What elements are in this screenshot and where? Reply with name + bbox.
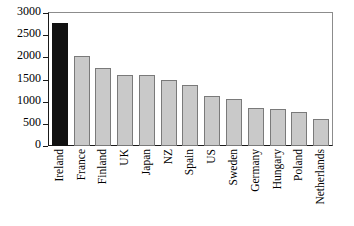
bar xyxy=(117,75,133,146)
x-axis-label: Finland xyxy=(98,149,110,184)
bar xyxy=(74,56,90,146)
x-axis-label: Spain xyxy=(185,149,197,175)
x-axis-label: Poland xyxy=(294,149,306,181)
x-axis-label: Japan xyxy=(141,149,153,175)
bar-series xyxy=(49,13,332,146)
bar-slot xyxy=(114,13,136,146)
y-axis-tick-label: 500 xyxy=(23,116,41,128)
x-axis-label-slot: Finland xyxy=(93,149,115,225)
bar-slot xyxy=(310,13,332,146)
bar xyxy=(139,75,155,146)
bar-slot xyxy=(180,13,202,146)
bar xyxy=(313,119,329,146)
x-axis-labels: IrelandFranceFinlandUKJapanNZSpainUSSwed… xyxy=(49,149,332,225)
x-axis-label-slot: Netherlands xyxy=(310,149,332,225)
x-axis-label-slot: NZ xyxy=(158,149,180,225)
x-axis-label: NZ xyxy=(163,149,175,164)
bar xyxy=(52,23,68,146)
x-axis-label-slot: Germany xyxy=(245,149,267,225)
x-axis-label: Germany xyxy=(250,149,262,192)
bar-slot xyxy=(93,13,115,146)
x-axis-label-slot: Spain xyxy=(180,149,202,225)
y-axis: 050010001500200025003000 xyxy=(0,0,48,160)
bar xyxy=(270,109,286,146)
bar-slot xyxy=(49,13,71,146)
y-axis-tick-label: 3000 xyxy=(17,5,41,17)
x-axis-label-slot: US xyxy=(201,149,223,225)
bar xyxy=(95,68,111,146)
x-axis-label: Sweden xyxy=(228,149,240,185)
bar xyxy=(226,99,242,146)
x-axis-label-slot: Ireland xyxy=(49,149,71,225)
y-axis-tick-label: 0 xyxy=(35,138,41,150)
bar xyxy=(248,108,264,146)
x-axis-label-slot: France xyxy=(71,149,93,225)
bar-slot xyxy=(223,13,245,146)
bar-slot xyxy=(288,13,310,146)
x-axis-label: UK xyxy=(119,149,131,166)
bar xyxy=(182,85,198,146)
y-axis-tick-mark xyxy=(43,146,48,147)
bar-slot xyxy=(71,13,93,146)
x-axis-label-slot: Hungary xyxy=(267,149,289,225)
y-axis-tick-label: 1000 xyxy=(17,94,41,106)
y-axis-tick-label: 2000 xyxy=(17,49,41,61)
x-axis-label-slot: Japan xyxy=(136,149,158,225)
bar xyxy=(291,112,307,146)
x-axis-label: France xyxy=(76,149,88,180)
bar-slot xyxy=(201,13,223,146)
x-axis-label-slot: UK xyxy=(114,149,136,225)
x-axis-label: US xyxy=(206,149,218,164)
bar xyxy=(204,96,220,146)
chart-figure: 050010001500200025003000 IrelandFranceFi… xyxy=(0,0,354,226)
bar-slot xyxy=(158,13,180,146)
y-axis-tick-label: 1500 xyxy=(17,72,41,84)
y-axis-tick-label: 2500 xyxy=(17,27,41,39)
bar-slot xyxy=(267,13,289,146)
x-axis-label: Ireland xyxy=(54,149,66,182)
bar-slot xyxy=(245,13,267,146)
bar-slot xyxy=(136,13,158,146)
x-axis-label: Netherlands xyxy=(315,149,327,205)
x-axis-label: Hungary xyxy=(272,149,284,189)
x-axis-label-slot: Sweden xyxy=(223,149,245,225)
bar xyxy=(161,80,177,147)
x-axis-label-slot: Poland xyxy=(288,149,310,225)
